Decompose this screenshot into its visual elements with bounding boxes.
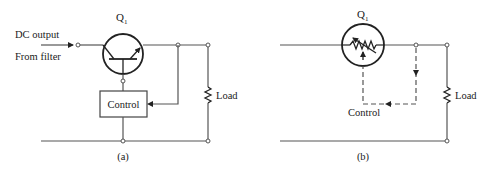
sense-terminal-b: [414, 43, 418, 47]
caption-b: (b): [357, 151, 370, 163]
feedback-arrow-icon: [147, 101, 153, 107]
output-terminal-top-b: [445, 43, 449, 47]
caption-a: (a): [117, 151, 129, 163]
load-label-a: Load: [216, 90, 238, 101]
control-label-b: Control: [348, 107, 380, 118]
transistor-label-q1: Q1: [116, 11, 128, 26]
load-resistor-icon-b: [444, 87, 450, 103]
control-block-label: Control: [107, 99, 139, 110]
input-label-dc-output: DC output: [15, 29, 59, 40]
feedback-wire: [152, 45, 178, 104]
input-label-from-filter: From filter: [15, 51, 61, 62]
output-terminal-bottom-b: [445, 139, 449, 143]
control-arrow-down-icon: [413, 70, 419, 76]
load-label-b: Load: [455, 90, 477, 101]
output-terminal-top: [206, 43, 210, 47]
base-terminal: [121, 79, 125, 83]
ground-terminal-mid: [121, 139, 125, 143]
panel-b: Q1 Control Load (b): [280, 8, 477, 163]
transistor-label-q1-b: Q1: [357, 8, 369, 23]
control-path-dashed: [363, 48, 416, 104]
panel-a: DC output From filter Q1 Control: [15, 11, 238, 163]
transistor-q1-icon: [103, 34, 143, 74]
series-regulator-diagram: DC output From filter Q1 Control: [0, 0, 487, 175]
output-terminal-bottom: [206, 139, 210, 143]
variable-resistor-q1-icon: [342, 24, 384, 66]
load-resistor-icon: [205, 87, 211, 103]
control-arrow-left-icon: [385, 101, 391, 107]
input-terminal: [76, 43, 80, 47]
